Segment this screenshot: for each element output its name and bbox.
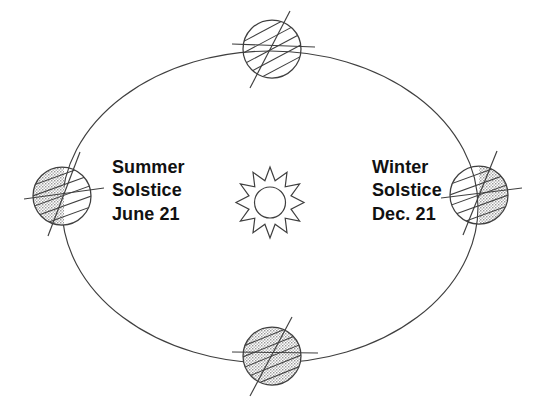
latitude-lines [235,325,309,386]
latitude-lines [234,16,309,81]
winter-solstice-line-2: Solstice [372,179,442,202]
summer-solstice-line-2: Solstice [112,179,185,202]
winter-solstice-label: Winter Solstice Dec. 21 [372,156,442,226]
earth-left [20,152,104,236]
earth-bottom [232,317,318,396]
sun-core [255,187,286,218]
summer-solstice-line-1: Summer [112,156,185,179]
earth-top [232,11,315,88]
summer-solstice-line-3: June 21 [112,203,185,226]
winter-solstice-line-1: Winter [372,156,442,179]
sun-icon [236,167,304,238]
orbit-diagram-svg [0,0,534,411]
earth-right [441,151,523,235]
diagram-canvas: Summer Solstice June 21 Winter Solstice … [0,0,534,411]
winter-solstice-line-3: Dec. 21 [372,203,442,226]
equator-line [232,44,315,47]
summer-solstice-label: Summer Solstice June 21 [112,156,185,226]
